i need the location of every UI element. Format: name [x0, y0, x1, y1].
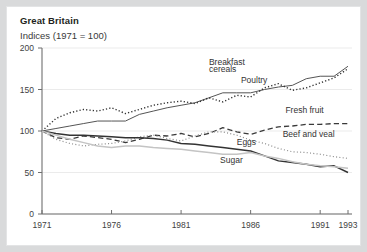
series-label: Eggs	[237, 137, 256, 147]
series-label: Beef and veal	[283, 129, 335, 139]
data-series-group	[42, 66, 348, 172]
series-line-poultry	[42, 69, 348, 131]
x-tick-label: 1986	[241, 220, 260, 230]
y-tick-label: 50	[25, 168, 35, 178]
series-label: Sugar	[220, 155, 243, 165]
x-tick-label: 1971	[33, 220, 52, 230]
chart-card: Great Britain Indices (1971 = 100) 05010…	[6, 6, 361, 246]
x-tick-label: 1993	[339, 220, 358, 230]
x-axis-ticks: 197119761981198619911993	[33, 210, 358, 230]
series-label: Fresh fruit	[285, 105, 324, 115]
y-tick-label: 100	[20, 126, 34, 136]
series-label: cereals	[209, 64, 236, 74]
x-tick-label: 1981	[172, 220, 191, 230]
y-tick-label: 200	[20, 43, 34, 53]
series-line-breakfast-cereals	[42, 66, 348, 131]
x-tick-label: 1991	[311, 220, 330, 230]
series-label: Poultry	[241, 75, 268, 85]
y-tick-label: 0	[29, 209, 34, 219]
y-tick-label: 150	[20, 85, 34, 95]
line-chart: 050100150200 197119761981198619911993 Br…	[7, 7, 362, 247]
x-tick-label: 1976	[102, 220, 121, 230]
y-axis-ticks: 050100150200	[20, 43, 42, 219]
series-annotations: BreakfastcerealsPoultryFresh fruitBeef a…	[209, 57, 335, 166]
